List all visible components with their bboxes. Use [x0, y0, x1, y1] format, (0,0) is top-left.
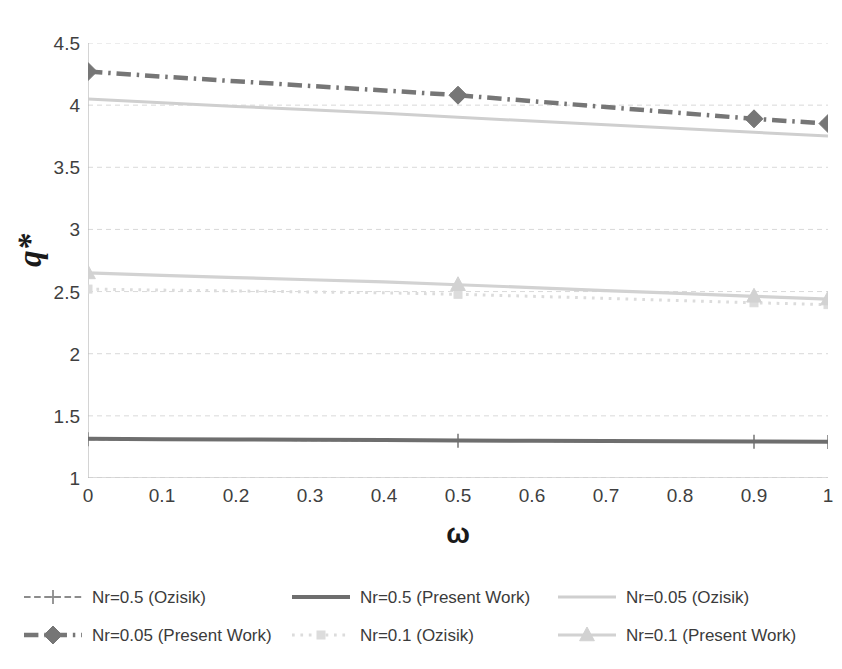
legend-item[interactable]: Nr=0.05 (Ozisik)	[556, 578, 822, 616]
series-marker	[819, 115, 828, 133]
series-marker	[88, 285, 92, 293]
legend-item[interactable]: Nr=0.1 (Present Work)	[556, 616, 822, 654]
x-tick-label: 0.7	[576, 486, 636, 505]
legend-label: Nr=0.1 (Ozisik)	[360, 627, 474, 644]
x-tick-label: 0.3	[280, 486, 340, 505]
series-marker	[449, 86, 467, 104]
chart-plot-svg	[88, 43, 828, 478]
legend-label: Nr=0.05 (Ozisik)	[626, 589, 749, 606]
plot-area	[88, 43, 828, 478]
legend-marker	[317, 631, 325, 639]
x-tick-label: 0.1	[132, 486, 192, 505]
y-tick-label: 1	[34, 469, 80, 488]
legend-item[interactable]: Nr=0.1 (Ozisik)	[290, 616, 556, 654]
series-marker	[88, 63, 97, 81]
legend-item[interactable]: Nr=0.05 (Present Work)	[22, 616, 290, 654]
legend-label: Nr=0.5 (Present Work)	[360, 589, 530, 606]
y-tick-label: 2	[34, 344, 80, 363]
x-tick-label: 0.2	[206, 486, 266, 505]
legend-swatch	[290, 586, 352, 608]
legend-swatch	[556, 586, 618, 608]
legend-marker	[44, 626, 62, 644]
y-axis-title: q*	[12, 216, 49, 286]
legend-swatch	[556, 624, 618, 646]
y-tick-label: 1.5	[34, 406, 80, 425]
series-3	[88, 63, 828, 133]
chart-figure: 11.522.533.544.5 00.10.20.30.40.50.60.70…	[0, 0, 842, 669]
y-tick-label: 4.5	[34, 34, 80, 53]
series-1	[88, 439, 828, 442]
y-tick-label: 3.5	[34, 158, 80, 177]
x-axis-title: ω	[88, 519, 828, 550]
x-tick-label: 0.8	[650, 486, 710, 505]
legend-item[interactable]: Nr=0.5 (Present Work)	[290, 578, 556, 616]
x-tick-label: 0.6	[502, 486, 562, 505]
series-line	[88, 439, 828, 442]
legend-marker	[46, 590, 60, 604]
chart-legend: Nr=0.5 (Ozisik)Nr=0.5 (Present Work)Nr=0…	[22, 578, 822, 658]
legend-label: Nr=0.5 (Ozisik)	[92, 589, 206, 606]
x-axis-tick-labels: 00.10.20.30.40.50.60.70.80.91	[88, 486, 828, 512]
legend-label: Nr=0.1 (Present Work)	[626, 627, 796, 644]
legend-row: Nr=0.5 (Ozisik)Nr=0.5 (Present Work)Nr=0…	[22, 578, 822, 616]
x-tick-label: 0.4	[354, 486, 414, 505]
legend-label: Nr=0.05 (Present Work)	[92, 627, 272, 644]
legend-row: Nr=0.05 (Present Work)Nr=0.1 (Ozisik)Nr=…	[22, 616, 822, 654]
legend-swatch	[290, 624, 352, 646]
x-tick-label: 1	[798, 486, 842, 505]
legend-swatch	[22, 586, 84, 608]
x-tick-label: 0	[58, 486, 118, 505]
series-marker	[454, 290, 462, 298]
legend-item[interactable]: Nr=0.5 (Ozisik)	[22, 578, 290, 616]
series-5	[88, 265, 828, 305]
series-marker	[745, 110, 763, 128]
x-tick-label: 0.5	[428, 486, 488, 505]
x-tick-label: 0.9	[724, 486, 784, 505]
legend-swatch	[22, 624, 84, 646]
y-tick-label: 4	[34, 96, 80, 115]
